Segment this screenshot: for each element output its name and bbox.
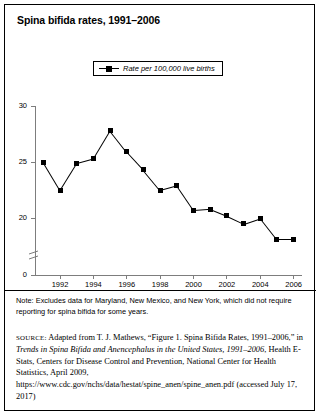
series-0-segment-3	[93, 131, 111, 160]
x-axis-label-1996: 1996	[112, 280, 142, 289]
data-point-1999	[174, 183, 179, 188]
x-axis-label-2006: 2006	[279, 280, 309, 289]
data-point-1993	[74, 161, 79, 166]
chart-note: Note: Excludes data for Maryland, New Me…	[16, 296, 305, 317]
data-point-2000	[191, 208, 196, 213]
figure-panel: Spina bifida rates, 1991–2006 Rate per 1…	[4, 4, 315, 411]
x-tick-2004	[260, 275, 261, 279]
x-tick-1992	[60, 275, 61, 279]
data-point-1994	[91, 156, 96, 161]
data-point-1995	[108, 128, 113, 133]
source-prefix: SOURCE:	[16, 334, 47, 341]
y-axis-label-25: 25	[9, 157, 27, 166]
data-point-1992	[58, 188, 63, 193]
x-tick-2006	[293, 275, 294, 279]
x-axis-line	[35, 275, 302, 276]
chart-source: SOURCE: Adapted from T. J. Mathews, “Fig…	[16, 332, 305, 403]
y-axis-label-30: 30	[9, 101, 27, 110]
y-tick-30	[31, 106, 35, 107]
x-tick-2002	[226, 275, 227, 279]
x-axis-label-1998: 1998	[145, 280, 175, 289]
divider-top	[5, 290, 316, 291]
data-point-1991	[41, 160, 46, 165]
series-0-segment-0	[43, 162, 61, 191]
y-axis-label-0: 0	[9, 270, 27, 279]
x-tick-1998	[160, 275, 161, 279]
data-point-1998	[158, 188, 163, 193]
x-axis-label-2004: 2004	[245, 280, 275, 289]
x-axis-label-1994: 1994	[78, 280, 108, 289]
y-axis-label-20: 20	[9, 213, 27, 222]
data-point-1996	[124, 149, 129, 154]
y-tick-0	[31, 275, 35, 276]
data-point-2003	[241, 221, 246, 226]
x-tick-1996	[126, 275, 127, 279]
data-point-1997	[141, 167, 146, 172]
source-italic-title: Trends in Spina Bifida and Anencephalus …	[16, 345, 264, 354]
source-text-1: Adapted from T. J. Mathews, “Figure 1. S…	[47, 333, 304, 342]
x-axis-label-1992: 1992	[45, 280, 75, 289]
data-point-2001	[208, 207, 213, 212]
y-tick-25	[31, 162, 35, 163]
data-point-2004	[258, 216, 263, 221]
data-point-2005	[274, 237, 279, 242]
axis-break-icon	[29, 248, 38, 260]
y-tick-20	[31, 218, 35, 219]
x-axis-label-2000: 2000	[179, 280, 209, 289]
x-axis-label-2002: 2002	[212, 280, 242, 289]
data-point-2002	[224, 213, 229, 218]
x-tick-1994	[93, 275, 94, 279]
x-tick-2000	[193, 275, 194, 279]
data-point-2006	[291, 237, 296, 242]
